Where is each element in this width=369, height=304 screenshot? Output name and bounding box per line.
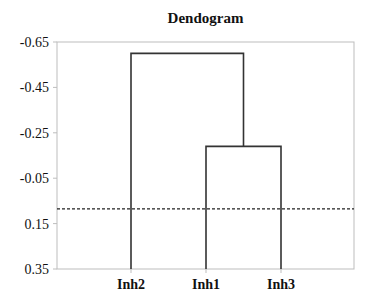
plot-area: -0.65-0.45-0.25-0.050.150.35Inh2Inh1Inh3 (0, 0, 369, 304)
y-tick-label: -0.65 (20, 35, 49, 50)
leaf-label: Inh1 (192, 277, 220, 292)
y-tick-label: -0.05 (20, 171, 49, 186)
y-tick-label: 0.15 (25, 217, 50, 232)
dendrogram-chart: Dendogram -0.65-0.45-0.25-0.050.150.35In… (0, 0, 369, 304)
y-tick-label: -0.25 (20, 126, 49, 141)
leaf-label: Inh3 (267, 277, 295, 292)
y-tick-label: -0.45 (20, 80, 49, 95)
merge-inh1-inh3 (206, 146, 281, 269)
leaf-label: Inh2 (117, 277, 145, 292)
merge-root (131, 53, 244, 269)
y-tick-label: 0.35 (25, 262, 50, 277)
